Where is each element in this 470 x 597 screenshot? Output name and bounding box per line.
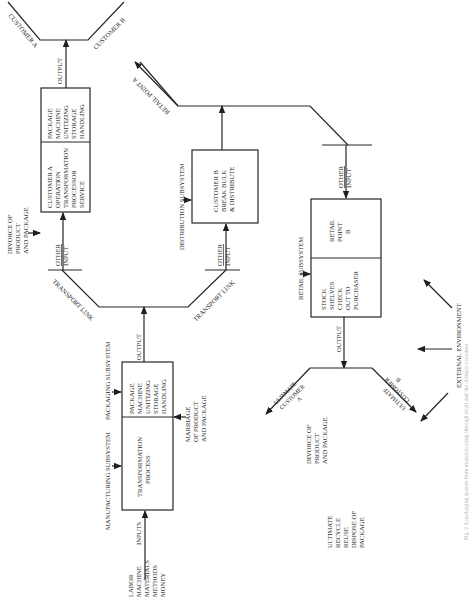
svg-text:B: B xyxy=(344,229,351,234)
svg-text:RECYCLE: RECYCLE xyxy=(334,518,341,548)
svg-text:CUSTOMER B: CUSTOMER B xyxy=(212,170,219,212)
svg-text:HANDLING: HANDLING xyxy=(160,379,167,414)
svg-text:PROCESSOR: PROCESSOR xyxy=(70,170,77,208)
svg-text:AND PACKAGE: AND PACKAGE xyxy=(321,418,328,464)
customer-a-other-input-label-1: OTHER xyxy=(54,243,61,266)
inputs-list: LABOR MACHINE MATERIALS METHODS MONEY xyxy=(127,560,166,597)
output-customer-a-label: CUSTOMER A xyxy=(7,12,39,49)
manufacturing-box-right-text: PACKAGE MACHINE UNITIZING STORAGE HANDLI… xyxy=(128,379,167,414)
ultimate-disposal-note: ULTIMATE RECYCLE REUSE DISPOSE OF PACKAG… xyxy=(326,511,365,548)
svg-text:STORAGE: STORAGE xyxy=(152,384,159,414)
external-arrow-up xyxy=(424,280,452,308)
svg-text:DIVORCE OF: DIVORCE OF xyxy=(6,214,13,254)
customer-a-other-input-label-2: INPUT xyxy=(62,247,69,266)
inputs-label: INPUTS xyxy=(135,522,142,545)
packaging-system-diagram: PACKAGE MACHINE UNITIZING STORAGE HANDLI… xyxy=(0,0,470,597)
packaging-subsystem-label: PACKAGING SUBSYSTEM xyxy=(104,341,111,420)
svg-text:POINT: POINT xyxy=(336,223,343,242)
external-environment-label: EXTERNAL ENVIRONMENT xyxy=(455,303,462,388)
svg-text:OUT TO: OUT TO xyxy=(344,286,351,310)
svg-text:SHELVES: SHELVES xyxy=(328,281,335,310)
svg-text:PRODUCT: PRODUCT xyxy=(14,223,21,254)
divorce-note-top: DIVORCE OF PRODUCT AND PACKAGE xyxy=(6,208,29,254)
ultimate-customer-b-label: ULTIMATE CUSTOMER B xyxy=(381,376,410,411)
divorce-note-bottom: DIVORCE OF PRODUCT AND PACKAGE xyxy=(305,418,328,464)
retail-other-input-label-2: INPUT xyxy=(345,169,352,188)
svg-text:OF PRODUCT: OF PRODUCT xyxy=(192,401,199,442)
svg-text:DISPOSE OF: DISPOSE OF xyxy=(350,511,357,548)
svg-text:PACKAGE: PACKAGE xyxy=(358,517,365,548)
svg-text:SERVICE: SERVICE xyxy=(78,181,85,208)
transport-link-right-label: TRANSPORT LINK xyxy=(192,278,236,322)
retail-route-line xyxy=(140,62,348,145)
retail-point-a-label: RETAIL POINT A xyxy=(130,76,170,116)
svg-text:PACKAGE: PACKAGE xyxy=(128,383,135,414)
ultimate-customer-a-label: ULTIMATE CUSTOMER A xyxy=(272,380,305,410)
svg-text:TRANSFORMATION: TRANSFORMATION xyxy=(136,437,143,497)
svg-text:AND PACKAGE: AND PACKAGE xyxy=(22,208,29,254)
manufacturing-output-label: OUTPUT xyxy=(135,334,142,360)
svg-text:B: B xyxy=(395,376,402,383)
customer-b-other-input-label-1: OTHER xyxy=(216,243,223,266)
customer-a-box-right-text: PACKAGE MACHINE UNITIZING STORAGE HANDLI… xyxy=(46,104,85,139)
svg-text:MACHINE: MACHINE xyxy=(136,383,143,414)
svg-text:MARRIAGE: MARRIAGE xyxy=(184,407,191,442)
customer-a-output-label: OUTPUT xyxy=(56,58,63,84)
svg-text:MONEY: MONEY xyxy=(159,573,166,597)
svg-text:MACHINE: MACHINE xyxy=(135,566,142,597)
svg-text:AND PACKAGE: AND PACKAGE xyxy=(200,396,207,442)
svg-text:METHODS: METHODS xyxy=(151,565,158,597)
svg-text:DIVORCE OF: DIVORCE OF xyxy=(305,424,312,464)
svg-text:MACHINE: MACHINE xyxy=(54,108,61,139)
distribution-subsystem-label: DISTRIBUTION SUBSYSTEM xyxy=(178,163,185,250)
svg-text:STOCK: STOCK xyxy=(320,288,327,310)
figure-caption: Fig. 2 A packaging system from manufactu… xyxy=(463,343,469,540)
svg-text:MATERIALS: MATERIALS xyxy=(143,560,150,597)
svg-text:CUSTOMER A: CUSTOMER A xyxy=(46,166,53,208)
svg-text:A: A xyxy=(295,395,303,403)
svg-text:BREAK BULK: BREAK BULK xyxy=(220,170,227,212)
svg-text:REUSE: REUSE xyxy=(342,527,349,548)
transport-link-left-label: TRANSPORT LINK xyxy=(51,278,95,322)
retail-other-input-label-1: OTHER xyxy=(337,165,344,188)
svg-text:UNITIZING: UNITIZING xyxy=(62,105,69,139)
svg-text:HANDLING: HANDLING xyxy=(78,104,85,139)
retail-output-label: OUTPUT xyxy=(335,326,342,352)
output-customer-b-label: CUSTOMER B xyxy=(92,16,127,51)
svg-text:LABOR: LABOR xyxy=(127,574,134,597)
svg-text:CHECK: CHECK xyxy=(336,287,343,310)
svg-text:PRODUCT: PRODUCT xyxy=(313,433,320,464)
transport-link-lines xyxy=(62,270,226,307)
svg-text:TRANSFORMATION: TRANSFORMATION xyxy=(62,148,69,208)
svg-text:PURCHASER: PURCHASER xyxy=(352,271,359,310)
marriage-note: MARRIAGE OF PRODUCT AND PACKAGE xyxy=(184,396,207,442)
svg-text:RETAIL: RETAIL xyxy=(328,219,335,242)
retail-subsystem-label: RETAIL SUBSYSTEM xyxy=(297,237,304,300)
svg-text:STORAGE: STORAGE xyxy=(70,109,77,139)
svg-text:& DISTRIBUTE: & DISTRIBUTE xyxy=(228,167,235,212)
svg-text:ULTIMATE: ULTIMATE xyxy=(326,516,333,548)
customer-b-box-text: CUSTOMER B BREAK BULK & DISTRIBUTE xyxy=(212,167,235,212)
customer-b-other-input-label-2: INPUT xyxy=(224,247,231,266)
manufacturing-subsystem-label: MANUFACTURING SUBSYSTEM xyxy=(104,432,111,530)
svg-text:OPERATION: OPERATION xyxy=(54,171,61,208)
external-arrow-down xyxy=(421,393,448,421)
svg-text:UNITIZING: UNITIZING xyxy=(144,380,151,414)
svg-text:PROCESS: PROCESS xyxy=(144,455,151,484)
svg-text:PACKAGE: PACKAGE xyxy=(46,108,53,139)
